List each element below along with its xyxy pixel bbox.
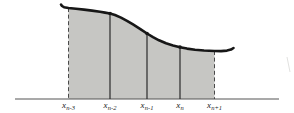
axis-label-sub: n-1 bbox=[145, 104, 154, 111]
figure-canvas: xn-3 xn-2 xn-1 xn xn+1 bbox=[0, 0, 294, 113]
curve-dot-1 bbox=[108, 12, 112, 16]
axis-label-sub: n-3 bbox=[66, 104, 75, 111]
scan-artifact bbox=[287, 57, 290, 72]
axis-label-xn: xn bbox=[176, 100, 183, 113]
axis-label-sub: n bbox=[180, 104, 183, 111]
axis-label-xn+1: xn+1 bbox=[207, 100, 222, 113]
axis-label-xn-3: xn-3 bbox=[62, 100, 75, 113]
axis-label-xn-1: xn-1 bbox=[141, 100, 154, 113]
shaded-region bbox=[69, 8, 215, 99]
axis-label-sub: n-2 bbox=[108, 104, 117, 111]
area-under-curve-diagram bbox=[0, 0, 294, 113]
curve-dot-3 bbox=[178, 45, 182, 49]
axis-label-sub: n+1 bbox=[211, 104, 222, 111]
axis-label-xn-2: xn-2 bbox=[104, 100, 117, 113]
curve-dot-2 bbox=[145, 32, 149, 36]
